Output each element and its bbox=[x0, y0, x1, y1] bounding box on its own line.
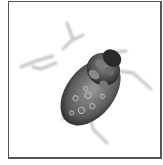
image-frame bbox=[8, 1, 162, 159]
tick-body bbox=[48, 40, 139, 137]
tick-illustration bbox=[8, 1, 162, 159]
